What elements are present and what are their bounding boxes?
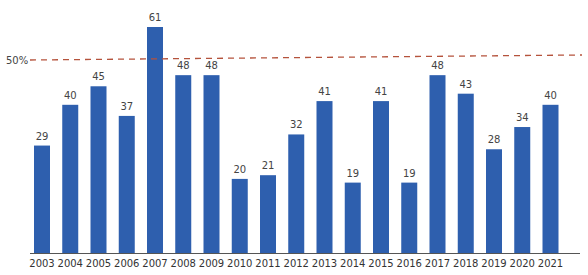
data-label-2016: 19 <box>403 168 416 179</box>
x-tick-2011: 2011 <box>255 258 280 269</box>
data-label-2004: 40 <box>64 90 77 101</box>
data-label-2009: 48 <box>205 60 218 71</box>
data-label-2013: 41 <box>318 86 331 97</box>
bar-2016 <box>401 183 417 253</box>
x-tick-2013: 2013 <box>312 258 337 269</box>
bar-chart: 29404537614848202132411941194843283440 5… <box>0 0 588 275</box>
bar-2012 <box>288 134 304 253</box>
bar-2004 <box>62 105 78 253</box>
reference-line-50-percent <box>30 55 582 60</box>
bar-2011 <box>260 175 276 253</box>
bar-2007 <box>147 27 163 253</box>
data-label-2015: 41 <box>375 86 388 97</box>
bar-2015 <box>373 101 389 253</box>
x-tick-2009: 2009 <box>199 258 224 269</box>
bar-2006 <box>119 116 135 253</box>
bar-2008 <box>175 75 191 253</box>
data-label-2010: 20 <box>233 164 246 175</box>
x-tick-2010: 2010 <box>227 258 252 269</box>
x-tick-2020: 2020 <box>510 258 535 269</box>
bar-2003 <box>34 146 50 253</box>
bar-2009 <box>204 75 220 253</box>
reference-line-label: 50% <box>6 55 28 66</box>
x-tick-2015: 2015 <box>368 258 393 269</box>
x-tick-2003: 2003 <box>29 258 54 269</box>
data-label-2019: 28 <box>488 134 501 145</box>
bar-2014 <box>345 183 361 253</box>
bar-2013 <box>317 101 333 253</box>
bar-2021 <box>543 105 559 253</box>
bar-2005 <box>91 86 107 253</box>
bars-group: 29404537614848202132411941194843283440 <box>34 12 559 253</box>
data-label-2003: 29 <box>36 131 49 142</box>
x-tick-2007: 2007 <box>142 258 167 269</box>
data-label-2021: 40 <box>544 90 557 101</box>
x-tick-2008: 2008 <box>171 258 196 269</box>
bar-2018 <box>458 94 474 253</box>
data-label-2011: 21 <box>262 160 275 171</box>
x-tick-2005: 2005 <box>86 258 111 269</box>
data-label-2012: 32 <box>290 119 303 130</box>
x-tick-2016: 2016 <box>397 258 422 269</box>
x-tick-2021: 2021 <box>538 258 563 269</box>
x-tick-2018: 2018 <box>453 258 478 269</box>
x-axis-ticks: 2003200420052006200720082009201020112012… <box>29 258 563 269</box>
data-label-2014: 19 <box>346 168 359 179</box>
x-tick-2004: 2004 <box>58 258 83 269</box>
x-tick-2006: 2006 <box>114 258 139 269</box>
data-label-2008: 48 <box>177 60 190 71</box>
data-label-2017: 48 <box>431 60 444 71</box>
x-tick-2012: 2012 <box>284 258 309 269</box>
data-label-2018: 43 <box>459 79 472 90</box>
x-tick-2014: 2014 <box>340 258 365 269</box>
data-label-2007: 61 <box>149 12 162 23</box>
bar-2019 <box>486 149 502 253</box>
data-label-2005: 45 <box>92 71 105 82</box>
bar-2020 <box>514 127 530 253</box>
bar-2010 <box>232 179 248 253</box>
x-tick-2017: 2017 <box>425 258 450 269</box>
data-label-2020: 34 <box>516 112 529 123</box>
data-label-2006: 37 <box>120 101 133 112</box>
bar-2017 <box>430 75 446 253</box>
x-tick-2019: 2019 <box>481 258 506 269</box>
